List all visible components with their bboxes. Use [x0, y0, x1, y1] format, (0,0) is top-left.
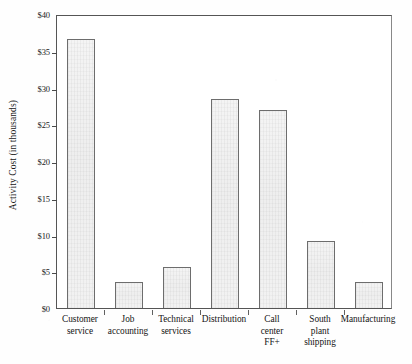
- y-axis-tick-label: $10: [38, 231, 50, 241]
- y-axis-tick-label: $30: [38, 84, 50, 94]
- y-axis-title-text: Activity Cost (in thousands): [8, 100, 18, 210]
- x-axis-tick-mark: [344, 310, 345, 315]
- bar: [211, 99, 240, 308]
- x-axis-category-label: Manufacturing: [340, 314, 396, 326]
- bar: [355, 282, 384, 308]
- y-axis-tick-mark: [52, 90, 57, 91]
- y-axis-tick-mark: [52, 200, 57, 201]
- y-axis-tick-label: $5: [42, 267, 50, 277]
- x-axis-tick-mark: [200, 310, 201, 315]
- y-axis-tick-label: $0: [42, 304, 50, 314]
- x-axis-category-labels: CustomerserviceJobaccountingTechnicalser…: [56, 314, 392, 364]
- bar: [115, 282, 144, 308]
- y-axis-tick-mark: [52, 126, 57, 127]
- y-axis-tick-label: $15: [38, 194, 50, 204]
- y-axis-tick-labels: $0$5$10$15$20$25$30$35$40: [22, 0, 50, 364]
- y-axis-tick-mark: [52, 163, 57, 164]
- bar: [259, 110, 288, 308]
- y-axis-tick-label: $35: [38, 47, 50, 57]
- x-axis-category-label-line: shipping: [292, 337, 348, 349]
- bar-chart: Activity Cost (in thousands) $0$5$10$15$…: [0, 0, 412, 364]
- y-axis-tick-mark: [52, 273, 57, 274]
- y-axis-tick-label: $20: [38, 157, 50, 167]
- x-axis-tick-mark: [296, 310, 297, 315]
- y-axis-tick-label: $40: [38, 10, 50, 20]
- x-axis-tick-mark: [152, 310, 153, 315]
- x-axis-category-label-line: Manufacturing: [340, 314, 396, 326]
- plot-area: [56, 15, 392, 309]
- bar: [307, 241, 336, 308]
- bar: [67, 39, 96, 308]
- x-axis-tick-mark: [104, 310, 105, 315]
- y-axis-tick-mark: [52, 237, 57, 238]
- bar: [163, 267, 192, 308]
- y-axis-tick-mark: [52, 53, 57, 54]
- x-axis-category-label-line: services: [148, 326, 204, 338]
- plot-inner: [57, 16, 391, 308]
- x-axis-tick-mark: [248, 310, 249, 315]
- y-axis-tick-label: $25: [38, 120, 50, 130]
- x-axis-category-label-line: plant: [292, 326, 348, 338]
